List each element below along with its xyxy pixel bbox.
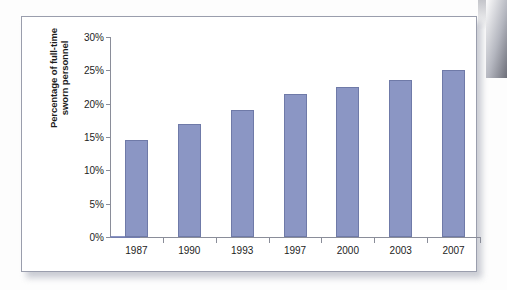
y-axis-tick-mark bbox=[106, 37, 111, 38]
bar bbox=[231, 110, 254, 237]
y-axis-tick: 25% bbox=[110, 70, 111, 71]
bar bbox=[284, 94, 307, 237]
y-axis-tick-label: 0% bbox=[90, 232, 104, 243]
y-axis-tick-label: 25% bbox=[84, 65, 104, 76]
plot-area: 0%5%10%15%20%25%30% 19871990199319972000… bbox=[110, 37, 480, 237]
y-axis-tick-mark bbox=[106, 204, 111, 205]
bar bbox=[125, 140, 148, 237]
x-axis-tick-label: 2003 bbox=[390, 245, 412, 256]
y-axis-tick-mark bbox=[106, 104, 111, 105]
x-axis-tick-label: 1987 bbox=[125, 245, 147, 256]
bar bbox=[389, 80, 412, 237]
y-axis-tick-label: 15% bbox=[84, 132, 104, 143]
x-axis-tick-label: 1993 bbox=[231, 245, 253, 256]
x-axis-tick-mark bbox=[427, 238, 428, 243]
x-axis-tick-mark bbox=[374, 238, 375, 243]
bar bbox=[178, 124, 201, 237]
scan-edge-artifact bbox=[486, 0, 507, 78]
y-axis-tick-mark bbox=[106, 237, 111, 238]
x-axis-tick-mark bbox=[163, 238, 164, 243]
bar bbox=[336, 87, 359, 237]
y-axis-tick: 15% bbox=[110, 137, 111, 138]
x-axis-tick-mark bbox=[480, 238, 481, 243]
x-axis-line bbox=[110, 237, 481, 238]
x-axis-tick-mark bbox=[269, 238, 270, 243]
y-axis-tick: 10% bbox=[110, 170, 111, 171]
scan-edge-artifact-top bbox=[478, 0, 486, 30]
y-axis-title: Percentage of full-time sworn personnel bbox=[45, 0, 73, 168]
y-axis-tick-label: 5% bbox=[90, 198, 104, 209]
y-axis-tick-mark bbox=[106, 137, 111, 138]
x-axis-tick-label: 2007 bbox=[442, 245, 464, 256]
y-axis-tick-mark bbox=[106, 170, 111, 171]
y-axis-tick: 5% bbox=[110, 204, 111, 205]
x-axis-tick-label: 1997 bbox=[284, 245, 306, 256]
x-axis-tick-mark bbox=[321, 238, 322, 243]
y-axis-tick-label: 20% bbox=[84, 98, 104, 109]
scanned-page-background: Percentage of full-time sworn personnel … bbox=[0, 0, 507, 290]
x-axis-tick-label: 2000 bbox=[337, 245, 359, 256]
y-axis-tick-label: 10% bbox=[84, 165, 104, 176]
x-axis-tick-mark bbox=[216, 238, 217, 243]
bar bbox=[442, 70, 465, 237]
y-axis-tick-label: 30% bbox=[84, 32, 104, 43]
y-axis-tick-mark bbox=[106, 70, 111, 71]
bar-chart: Percentage of full-time sworn personnel … bbox=[21, 16, 477, 272]
y-axis-tick: 0% bbox=[110, 237, 111, 238]
y-axis-tick: 30% bbox=[110, 37, 111, 38]
x-axis-tick-label: 1990 bbox=[178, 245, 200, 256]
y-axis-tick: 20% bbox=[110, 104, 111, 105]
